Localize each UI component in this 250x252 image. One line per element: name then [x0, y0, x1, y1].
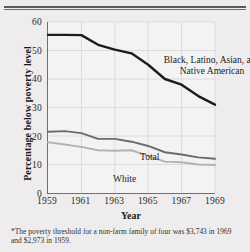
gridlines: [48, 22, 215, 193]
x-axis-tick-labels: 195919611963196519671969: [47, 196, 215, 210]
chart-footnote: *The poverty threshold for a non-farm fa…: [11, 227, 243, 245]
x-axis-title: Year: [47, 210, 215, 221]
plot-area: Black, Latino, Asian, and Native America…: [47, 22, 215, 194]
y-axis-title: Percentage below poverty level: [22, 26, 33, 202]
y-tick-label: 60: [32, 17, 42, 27]
y-tick-label: 30: [32, 103, 42, 113]
series-label-minority: Black, Latino, Asian, and Native America…: [152, 55, 250, 77]
series-line: [48, 142, 215, 165]
y-tick-label: 20: [32, 132, 42, 142]
poverty-chart-figure: 0102030405060 Black, Latino, Asian, and …: [0, 0, 250, 252]
plot-svg: [48, 22, 215, 193]
x-tick-label: 1961: [71, 196, 91, 206]
rule-thin: [4, 9, 246, 10]
x-tick-label: 1967: [171, 196, 191, 206]
x-tick-label: 1969: [205, 196, 225, 206]
x-tick-label: 1963: [104, 196, 124, 206]
series-label-total: Total: [140, 152, 159, 163]
x-tick-label: 1959: [37, 196, 57, 206]
x-tick-label: 1965: [138, 196, 158, 206]
y-tick-label: 50: [32, 46, 42, 56]
y-tick-label: 10: [32, 160, 42, 170]
top-double-rule: [4, 6, 246, 10]
series-label-white: White: [113, 174, 136, 185]
y-tick-label: 40: [32, 74, 42, 84]
